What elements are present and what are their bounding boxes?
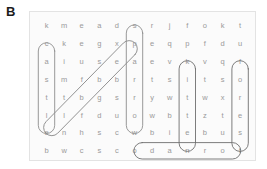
- grid-cell[interactable]: i: [179, 71, 196, 88]
- grid-cell[interactable]: n: [179, 142, 196, 159]
- grid-cell[interactable]: d: [144, 142, 161, 159]
- grid-cell[interactable]: z: [196, 107, 213, 124]
- grid-cell[interactable]: f: [196, 35, 213, 52]
- puzzle-frame: kmeadsrjfoktckegxpeqpfduaiuseaevkvqfsmfb…: [29, 11, 256, 161]
- grid-cell[interactable]: d: [214, 35, 231, 52]
- grid-cell[interactable]: s: [38, 71, 55, 88]
- grid-cell[interactable]: b: [38, 142, 55, 159]
- grid-cell[interactable]: d: [91, 107, 108, 124]
- grid-cell[interactable]: t: [56, 89, 73, 106]
- grid-cell[interactable]: v: [161, 53, 178, 70]
- grid-cell[interactable]: q: [161, 35, 178, 52]
- grid-cell[interactable]: e: [108, 53, 125, 70]
- letter-grid: kmeadsrjfoktckegxpeqpfduaiuseaevkvqfsmfb…: [30, 12, 257, 162]
- grid-cell[interactable]: w: [196, 89, 213, 106]
- grid-cell[interactable]: s: [108, 89, 125, 106]
- panel-label: B: [6, 5, 15, 18]
- grid-cell[interactable]: r: [232, 89, 249, 106]
- grid-cell[interactable]: t: [144, 71, 161, 88]
- grid-cell[interactable]: l: [38, 107, 55, 124]
- grid-cell[interactable]: q: [214, 53, 231, 70]
- grid-cell[interactable]: u: [214, 124, 231, 141]
- grid-cell[interactable]: j: [161, 17, 178, 34]
- grid-cell[interactable]: e: [73, 35, 90, 52]
- grid-cell[interactable]: p: [179, 35, 196, 52]
- grid-cell[interactable]: c: [108, 124, 125, 141]
- grid-cell[interactable]: s: [91, 142, 108, 159]
- grid-cell[interactable]: t: [232, 142, 249, 159]
- grid-cell[interactable]: r: [196, 142, 213, 159]
- grid-cell[interactable]: i: [56, 53, 73, 70]
- grid-cell[interactable]: r: [126, 89, 143, 106]
- grid-cell[interactable]: k: [179, 53, 196, 70]
- grid-cell[interactable]: o: [126, 107, 143, 124]
- grid-cell[interactable]: o: [196, 17, 213, 34]
- grid-cell[interactable]: v: [196, 53, 213, 70]
- grid-cell[interactable]: e: [179, 124, 196, 141]
- grid-cell[interactable]: b: [108, 71, 125, 88]
- grid-cell[interactable]: s: [214, 71, 231, 88]
- grid-cell[interactable]: b: [73, 89, 90, 106]
- grid-cell[interactable]: a: [126, 53, 143, 70]
- grid-cell[interactable]: a: [91, 17, 108, 34]
- grid-cell[interactable]: t: [214, 107, 231, 124]
- word-search-figure: B kmeadsrjfoktckegxpeqpfduaiuseaevkvqfsm…: [0, 0, 267, 169]
- grid-cell[interactable]: n: [56, 124, 73, 141]
- grid-cell[interactable]: d: [108, 17, 125, 34]
- grid-cell[interactable]: a: [38, 53, 55, 70]
- grid-cell[interactable]: t: [232, 17, 249, 34]
- grid-cell[interactable]: e: [38, 124, 55, 141]
- grid-cell[interactable]: w: [161, 89, 178, 106]
- grid-cell[interactable]: o: [126, 142, 143, 159]
- grid-cell[interactable]: u: [108, 107, 125, 124]
- grid-cell[interactable]: t: [196, 71, 213, 88]
- grid-cell[interactable]: g: [91, 35, 108, 52]
- grid-cell[interactable]: h: [73, 124, 90, 141]
- grid-cell[interactable]: c: [108, 142, 125, 159]
- grid-cell[interactable]: e: [232, 107, 249, 124]
- grid-cell[interactable]: k: [56, 35, 73, 52]
- grid-cell[interactable]: a: [161, 142, 178, 159]
- grid-cell[interactable]: r: [144, 17, 161, 34]
- grid-cell[interactable]: c: [38, 35, 55, 52]
- grid-cell[interactable]: o: [214, 142, 231, 159]
- grid-cell[interactable]: s: [126, 17, 143, 34]
- grid-cell[interactable]: w: [56, 142, 73, 159]
- grid-cell[interactable]: x: [108, 35, 125, 52]
- grid-cell[interactable]: x: [214, 89, 231, 106]
- grid-cell[interactable]: e: [73, 17, 90, 34]
- grid-cell[interactable]: p: [126, 35, 143, 52]
- grid-cell[interactable]: t: [179, 89, 196, 106]
- grid-cell[interactable]: e: [144, 35, 161, 52]
- grid-cell[interactable]: f: [179, 17, 196, 34]
- grid-cell[interactable]: e: [144, 53, 161, 70]
- grid-cell[interactable]: w: [144, 107, 161, 124]
- grid-cell[interactable]: b: [161, 107, 178, 124]
- grid-cell[interactable]: b: [196, 124, 213, 141]
- grid-cell[interactable]: l: [56, 107, 73, 124]
- grid-cell[interactable]: s: [91, 53, 108, 70]
- grid-cell[interactable]: s: [161, 71, 178, 88]
- grid-cell[interactable]: i: [161, 124, 178, 141]
- grid-cell[interactable]: r: [126, 71, 143, 88]
- grid-cell[interactable]: t: [179, 107, 196, 124]
- grid-cell[interactable]: b: [144, 124, 161, 141]
- grid-cell[interactable]: s: [91, 124, 108, 141]
- grid-cell[interactable]: u: [73, 53, 90, 70]
- grid-cell[interactable]: c: [73, 142, 90, 159]
- grid-cell[interactable]: f: [232, 53, 249, 70]
- grid-cell[interactable]: f: [73, 71, 90, 88]
- grid-cell[interactable]: o: [232, 71, 249, 88]
- grid-cell[interactable]: k: [38, 17, 55, 34]
- grid-cell[interactable]: m: [56, 71, 73, 88]
- grid-cell[interactable]: b: [91, 71, 108, 88]
- grid-cell[interactable]: k: [214, 17, 231, 34]
- grid-cell[interactable]: s: [232, 124, 249, 141]
- grid-cell[interactable]: g: [91, 89, 108, 106]
- grid-cell[interactable]: f: [73, 107, 90, 124]
- grid-cell[interactable]: w: [126, 124, 143, 141]
- grid-cell[interactable]: u: [232, 35, 249, 52]
- grid-cell[interactable]: m: [56, 17, 73, 34]
- grid-cell[interactable]: t: [38, 89, 55, 106]
- grid-cell[interactable]: y: [144, 89, 161, 106]
